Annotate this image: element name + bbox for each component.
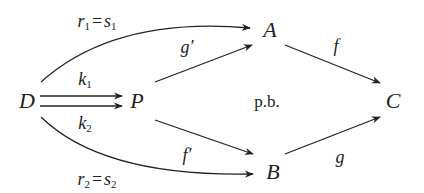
node-D: D — [19, 90, 35, 112]
node-A: A — [263, 19, 276, 41]
label-r2-name: r — [77, 169, 84, 189]
label-k2-name: k — [78, 113, 86, 133]
label-r2-sub: 2 — [84, 178, 90, 190]
label-k1-name: k — [78, 69, 86, 89]
diagram-canvas — [0, 0, 424, 193]
label-k1-sub: 1 — [86, 78, 92, 90]
label-r1-s1: r1=s1 — [77, 12, 116, 32]
node-C: C — [386, 90, 401, 112]
label-s1-sub: 1 — [111, 20, 117, 32]
label-k2-sub: 2 — [86, 122, 92, 134]
label-r2-eq: = — [92, 169, 102, 189]
pullback-label: p.b. — [254, 93, 280, 110]
label-f-prime: f′ — [183, 146, 192, 164]
arrow-r1-s1 — [41, 26, 250, 82]
label-s1-name: s — [104, 11, 111, 31]
label-g: g — [336, 148, 345, 166]
label-r2-s2: r2=s2 — [77, 170, 116, 190]
arrow-g — [285, 117, 380, 154]
label-k1: k1 — [78, 70, 92, 90]
label-r1-sub: 1 — [84, 20, 90, 32]
label-g-prime: g′ — [181, 38, 194, 56]
label-s2-name: s — [104, 169, 111, 189]
label-s2-sub: 2 — [111, 178, 117, 190]
label-r1-name: r — [77, 11, 84, 31]
node-P: P — [130, 90, 143, 112]
label-f: f — [333, 37, 338, 55]
label-k2: k2 — [78, 114, 92, 134]
arrow-g-prime — [155, 45, 252, 82]
arrow-r2-s2 — [41, 117, 253, 174]
arrow-f-prime — [155, 120, 253, 154]
label-r1-eq: = — [92, 11, 102, 31]
node-B: B — [266, 161, 279, 183]
